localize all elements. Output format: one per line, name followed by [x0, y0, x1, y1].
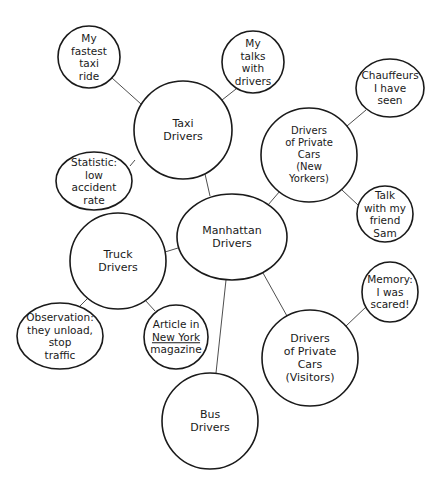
node-label-truck: TruckDrivers	[98, 248, 138, 274]
node-label-line: My	[71, 32, 107, 45]
node-label-line: Statistic:	[71, 156, 117, 169]
node-label-memory: Memory:I wasscared!	[367, 273, 412, 311]
node-label-line: Taxi	[163, 117, 203, 130]
node-label-line: Chauffeurs	[361, 69, 418, 82]
node-label-line: of Private	[284, 345, 336, 358]
node-label-bus: BusDrivers	[190, 408, 230, 434]
node-label-article: Article inNew Yorkmagazine	[150, 318, 201, 356]
node-label-line: Yorkers)	[285, 173, 333, 185]
edge-taxi-fastest	[112, 78, 141, 104]
node-label-line: drivers	[235, 75, 271, 88]
node-label-line: friend	[364, 214, 406, 227]
node-label-line: stop	[26, 336, 93, 349]
node-label-sam: Talkwith myfriendSam	[364, 189, 406, 239]
edge-truck-article	[145, 300, 155, 311]
edge-private_ny-sam	[342, 190, 358, 205]
node-label-observation: Observation:they unload,stoptraffic	[26, 311, 93, 361]
node-label-line: Drivers	[190, 421, 230, 434]
node-label-line: fastest	[71, 45, 107, 58]
node-label-line: New York	[150, 331, 201, 344]
node-label-line: Memory:	[367, 273, 412, 286]
node-label-line: accident	[71, 181, 117, 194]
node-label-line: scared!	[367, 298, 412, 311]
node-label-line: Manhattan	[202, 224, 261, 237]
node-label-private-ny: Driversof PrivateCars(NewYorkers)	[285, 125, 333, 185]
node-label-line: I have	[361, 82, 418, 95]
edge-manhattan-bus	[216, 280, 226, 373]
node-label-taxi: TaxiDrivers	[163, 117, 203, 143]
node-label-line: Drivers	[202, 237, 261, 250]
node-label-line: seen	[361, 94, 418, 107]
node-label-line: Sam	[364, 227, 406, 240]
node-label-statistic: Statistic:lowaccidentrate	[71, 156, 117, 206]
node-label-line: Drivers	[163, 130, 203, 143]
node-label-line: with	[235, 62, 271, 75]
node-label-line: I was	[367, 286, 412, 299]
node-label-line: Cars	[285, 149, 333, 161]
node-label-line: rate	[71, 194, 117, 207]
edge-manhattan-taxi	[205, 174, 210, 196]
node-label-line: ride	[71, 70, 107, 83]
node-label-chauffeurs: ChauffeursI haveseen	[361, 69, 418, 107]
node-label-talks: Mytalkswithdrivers	[235, 37, 271, 87]
node-label-line: they unload,	[26, 324, 93, 337]
node-label-line: magazine	[150, 343, 201, 356]
node-label-line: with my	[364, 202, 406, 215]
node-label-line: Truck	[98, 248, 138, 261]
node-label-line: taxi	[71, 57, 107, 70]
node-label-line: Drivers	[284, 332, 336, 345]
node-label-line: Article in	[150, 318, 201, 331]
node-label-line: (New	[285, 161, 333, 173]
node-label-line: of Private	[285, 137, 333, 149]
node-label-line: talks	[235, 50, 271, 63]
node-label-manhattan: ManhattanDrivers	[202, 224, 261, 250]
edge-private_ny-chauffeurs	[347, 110, 366, 126]
node-label-line: traffic	[26, 349, 93, 362]
edge-taxi-statistic	[130, 160, 135, 166]
node-label-fastest: Myfastesttaxiride	[71, 32, 107, 82]
node-label-private-visitors: Driversof PrivateCars(Visitors)	[284, 332, 336, 384]
node-label-line: low	[71, 169, 117, 182]
node-label-line: Drivers	[285, 125, 333, 137]
node-label-line: Bus	[190, 408, 230, 421]
edge-private_visitors-memory	[346, 306, 367, 326]
node-label-line: Observation:	[26, 311, 93, 324]
edge-manhattan-private_ny	[268, 191, 280, 205]
node-label-line: Cars	[284, 358, 336, 371]
edge-truck-observation	[79, 298, 88, 307]
node-label-line: Drivers	[98, 261, 138, 274]
edge-manhattan-truck	[165, 248, 178, 252]
node-label-line: Talk	[364, 189, 406, 202]
edge-taxi-talks	[222, 89, 236, 100]
node-label-line: (Visitors)	[284, 371, 336, 384]
node-label-line: My	[235, 37, 271, 50]
edge-manhattan-private_visitors	[263, 273, 287, 316]
